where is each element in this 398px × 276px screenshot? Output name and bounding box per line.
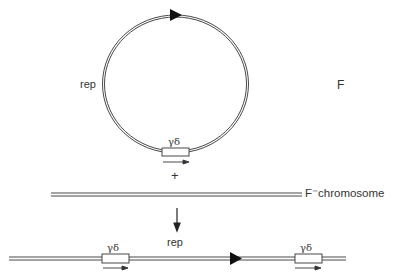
chromosome-line (51, 193, 302, 196)
plasmid-rep-label: rep (80, 79, 96, 90)
plus-sign: + (171, 169, 179, 182)
gamma-delta-box-left (102, 254, 129, 263)
down-arrow-icon (174, 208, 180, 231)
result-gamma-delta-right-label: γδ (300, 243, 312, 253)
diagram-canvas (0, 0, 398, 276)
plasmid-gamma-delta-label: γδ (168, 137, 180, 147)
chromosome-label: F⁻chromosome (305, 188, 385, 200)
direction-arrow-icon (163, 160, 189, 164)
result-gamma-delta-left-label: γδ (107, 243, 119, 253)
origin-triangle-icon (170, 9, 182, 21)
origin-triangle-result-icon (230, 252, 242, 265)
f-plasmid-circle (103, 15, 249, 153)
direction-arrow-left-icon (103, 266, 128, 270)
direction-arrow-right-icon (295, 266, 321, 270)
result-rep-label: rep (167, 237, 183, 248)
gamma-delta-box-right (295, 254, 322, 263)
gamma-delta-box-plasmid (162, 148, 189, 156)
plasmid-f-label: F (337, 79, 344, 91)
